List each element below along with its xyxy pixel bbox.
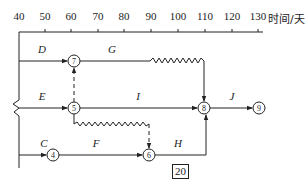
axis-tick-60: 60 [66, 10, 77, 22]
node-7: 7 [68, 55, 81, 68]
axis-tick-80: 80 [119, 10, 130, 22]
axis-tick-130: 130 [250, 10, 267, 22]
dummy-5-6-wave [74, 114, 149, 126]
axis-unit-label: 时间/天 [268, 10, 305, 26]
activity-label-H: H [174, 137, 182, 149]
activity-label-G: G [108, 43, 116, 55]
node-5: 5 [68, 102, 81, 115]
boxed-value: 20 [172, 164, 189, 179]
node-4: 4 [47, 149, 60, 162]
axis-tick-100: 100 [170, 10, 187, 22]
time-scaled-network-diagram: 40 50 60 70 80 90 100 110 120 130 时间/天 D… [0, 0, 308, 188]
free-float-wave-G [150, 58, 204, 63]
activity-H-arrow [155, 115, 206, 155]
start-line [13, 32, 19, 168]
activity-label-I: I [136, 90, 140, 102]
node-6: 6 [143, 149, 156, 162]
axis-tick-40: 40 [14, 10, 25, 22]
axis-tick-110: 110 [197, 10, 213, 22]
axis-tick-120: 120 [224, 10, 241, 22]
activity-label-F: F [93, 137, 100, 149]
activity-label-E: E [39, 90, 46, 102]
axis-tick-50: 50 [40, 10, 51, 22]
node-9: 9 [253, 102, 266, 115]
activity-label-C: C [40, 137, 47, 149]
node-8: 8 [198, 102, 211, 115]
activity-label-J: J [230, 90, 235, 102]
diagram-lines [0, 0, 308, 188]
axis-tick-90: 90 [146, 10, 157, 22]
activity-label-D: D [38, 43, 46, 55]
axis-tick-70: 70 [93, 10, 104, 22]
